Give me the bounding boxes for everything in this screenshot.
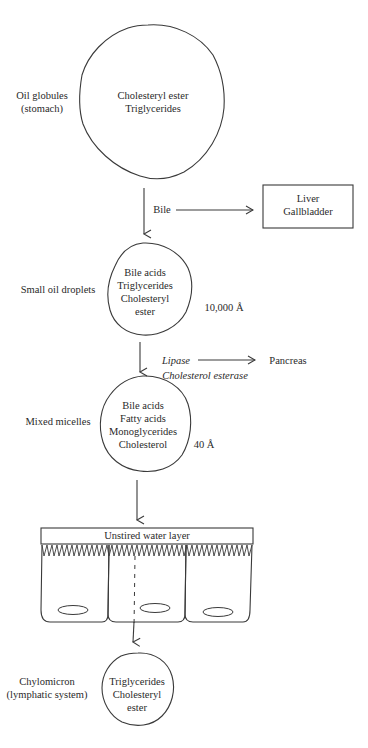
small-oil-droplets-label: Small oil droplets [18, 283, 98, 296]
unstired-water-layer-label: Unstired water layer [41, 529, 253, 542]
small-droplet-contents: Bile acids Triglycerides Cholesteryl est… [110, 266, 180, 318]
liver-label: Liver [263, 192, 353, 205]
content-item: ester [110, 305, 180, 318]
pancreas-label: Pancreas [266, 354, 310, 367]
content-item: Cholesterol [105, 438, 181, 451]
content-item: Triglycerides [98, 102, 208, 115]
enterocyte-cell-2 [108, 545, 186, 622]
content-item: Cholesteryl ester [98, 89, 208, 102]
content-item: Bile acids [105, 399, 181, 412]
content-item: Fatty acids [105, 412, 181, 425]
lipase-label: Lipase [161, 354, 191, 367]
arrow-to-chylomicron [133, 622, 134, 642]
chylomicron-contents: Triglycerides Cholesteryl ester [104, 675, 170, 714]
mixed-micelles-label: Mixed micelles [24, 415, 92, 428]
chylomicron-label-line1: Chylomicron [4, 675, 90, 688]
content-item: Cholesteryl [104, 688, 170, 701]
nucleus-cell-1 [58, 606, 88, 615]
oil-globules-label-line1: Oil globules [10, 89, 74, 102]
content-item: Triglycerides [104, 675, 170, 688]
nucleus-cell-3 [203, 608, 233, 617]
content-item: ester [104, 701, 170, 714]
content-item: Monoglycerides [105, 425, 181, 438]
enterocyte-cell-3 [185, 545, 252, 622]
mixed-micelle-contents: Bile acids Fatty acids Monoglycerides Ch… [105, 399, 181, 451]
micelle-size-label: 40 Å [190, 438, 218, 451]
nucleus-cell-2 [140, 604, 170, 613]
bile-label: Bile [150, 203, 174, 216]
content-item: Triglycerides [110, 279, 180, 292]
microvilli-brush-border [42, 545, 252, 556]
dashed-absorption-path [134, 556, 135, 628]
content-item: Cholesteryl [110, 292, 180, 305]
content-item: Bile acids [110, 266, 180, 279]
droplet-size-label: 10,000 Å [200, 301, 248, 314]
oil-globules-label: Oil globules (stomach) [10, 89, 74, 115]
chylomicron-label-line2: (lymphatic system) [4, 688, 90, 701]
liver-gallbladder-label: Liver Gallbladder [263, 192, 353, 218]
cholesterol-esterase-label: Cholesterol esterase [160, 369, 250, 382]
gallbladder-label: Gallbladder [263, 205, 353, 218]
enterocyte-cell-1 [41, 545, 109, 622]
chylomicron-label: Chylomicron (lymphatic system) [4, 675, 90, 701]
oil-globules-contents: Cholesteryl ester Triglycerides [98, 89, 208, 115]
oil-globules-label-line2: (stomach) [10, 102, 74, 115]
